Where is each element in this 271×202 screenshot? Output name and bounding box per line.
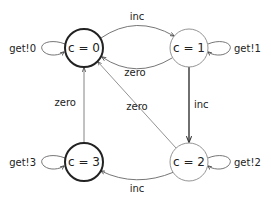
node-label: c = 2	[173, 155, 205, 169]
node-label: c = 3	[68, 155, 100, 169]
edge-label: zero	[55, 97, 76, 108]
loop-label: get!3	[9, 157, 36, 168]
edge-label: zero	[124, 67, 145, 78]
state-diagram: c = 0 c = 1 c = 2 c = 3 inc zero inc zer…	[0, 0, 271, 202]
edge-label: zero	[126, 101, 147, 112]
loop-s3	[42, 156, 65, 169]
loop-label: get!1	[234, 43, 261, 54]
node-label: c = 1	[173, 41, 205, 55]
node-s3: c = 3	[65, 143, 103, 181]
loop-label: get!2	[234, 157, 261, 168]
node-s2: c = 2	[170, 143, 208, 181]
node-s0: c = 0	[65, 29, 103, 67]
node-s1: c = 1	[170, 29, 208, 67]
edge-label: inc	[130, 11, 145, 22]
edge-label: inc	[130, 183, 145, 194]
edge-label: inc	[194, 99, 209, 110]
edge-s0-s1-inc	[101, 25, 174, 38]
loop-s1	[208, 42, 230, 55]
loop-s0	[42, 42, 65, 55]
loop-label: get!0	[9, 43, 36, 54]
loop-s2	[208, 156, 230, 169]
node-label: c = 0	[68, 41, 100, 55]
edge-s2-s3-inc	[101, 171, 174, 180]
